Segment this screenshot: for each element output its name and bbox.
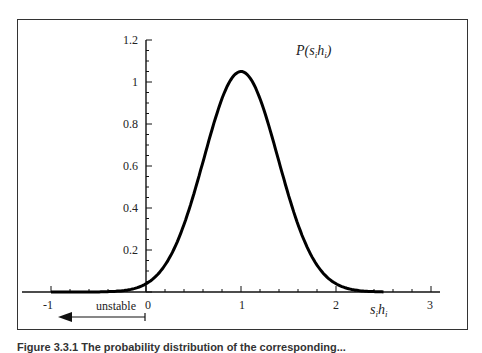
x-axis-label: sihi — [370, 302, 388, 319]
probability-curve — [51, 72, 384, 293]
figure-caption: Figure 3.3.1 The probability distributio… — [17, 341, 346, 353]
x-tick-label: -1 — [43, 298, 53, 312]
x-tick-label: 3 — [427, 298, 433, 312]
y-tick-label: 0.4 — [123, 201, 138, 215]
y-tick-label: 0.8 — [123, 117, 138, 131]
y-tick-label: 0.6 — [123, 159, 138, 173]
x-tick-label: 1 — [239, 298, 245, 312]
unstable-label: unstable — [96, 299, 136, 313]
curve-label: P(sihi) — [295, 43, 332, 60]
arrow-left-icon — [58, 312, 72, 322]
y-tick-label: 1.2 — [123, 33, 138, 47]
x-tick-label: 2 — [333, 298, 339, 312]
y-tick-label: 0.2 — [123, 243, 138, 257]
x-tick-label: 0 — [145, 298, 151, 312]
y-tick-label: 1 — [132, 75, 138, 89]
y-axis-minor-ticks — [146, 40, 152, 292]
